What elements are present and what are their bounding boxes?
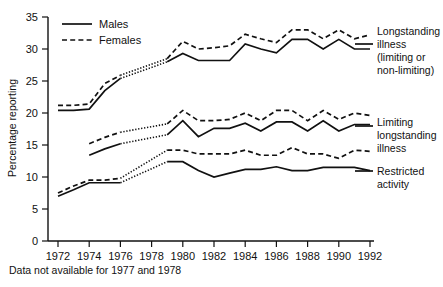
series-line <box>167 110 370 123</box>
annotation-longstanding-line-4: non-limiting) <box>377 64 434 76</box>
legend-label-males: Males <box>99 18 129 30</box>
y-tick-label: 20 <box>26 107 38 119</box>
y-axis-tick-labels: 05101520253035 <box>26 11 38 247</box>
x-tick-label: 1982 <box>202 250 226 262</box>
y-axis-ticks <box>42 17 48 241</box>
x-tick-label: 1990 <box>327 250 351 262</box>
series-line <box>58 75 120 105</box>
x-axis-tick-labels: 1972197419761978198019821984198619881990… <box>46 250 382 262</box>
series-line <box>167 148 370 159</box>
x-tick-label: 1972 <box>46 250 70 262</box>
series-line <box>167 39 370 61</box>
annotation-longstanding: Longstanding illness (limiting or non-li… <box>355 25 440 76</box>
series-gap-connector <box>120 62 167 79</box>
x-axis-ticks <box>58 241 370 247</box>
x-tick-label: 1992 <box>358 250 382 262</box>
series-restricted-males <box>58 162 370 197</box>
annotation-restricted-line-1: Restricted <box>377 165 424 177</box>
x-tick-label: 1986 <box>264 250 288 262</box>
x-tick-label: 1974 <box>77 250 101 262</box>
x-tick-label: 1978 <box>139 250 163 262</box>
annotation-longstanding-line-2: illness <box>377 38 406 50</box>
y-tick-label: 5 <box>32 203 38 215</box>
series-line <box>89 132 120 144</box>
series-line <box>167 121 370 137</box>
line-chart: 05101520253035 1972197419761978198019821… <box>0 0 443 287</box>
y-tick-label: 10 <box>26 171 38 183</box>
annotation-longstanding-line-1: Longstanding <box>377 25 440 37</box>
series-gap-connector <box>120 124 167 132</box>
footnote: Data not available for 1977 and 1978 <box>9 264 181 276</box>
annotation-restricted: Restricted activity <box>355 165 424 190</box>
annotation-limiting-line-1: Limiting <box>377 116 413 128</box>
series-layer <box>58 30 370 196</box>
series-gap-connector <box>120 59 167 76</box>
annotation-longstanding-line-3: (limiting or <box>377 51 426 63</box>
series-longstanding-males <box>58 39 370 110</box>
chart-figure: 05101520253035 1972197419761978198019821… <box>0 0 443 287</box>
axes: 05101520253035 1972197419761978198019821… <box>26 11 382 262</box>
y-tick-label: 0 <box>32 235 38 247</box>
series-limiting-females <box>89 110 370 143</box>
x-tick-label: 1980 <box>171 250 195 262</box>
series-limiting-males <box>89 121 370 156</box>
y-tick-label: 30 <box>26 43 38 55</box>
y-axis-title: Percentage reporting <box>6 79 18 177</box>
x-tick-label: 1984 <box>233 250 257 262</box>
series-line <box>167 30 370 59</box>
series-line <box>58 178 120 193</box>
series-gap-connector <box>120 135 167 144</box>
series-gap-connector <box>120 150 167 178</box>
annotation-limiting-line-3: illness <box>377 142 406 154</box>
annotation-restricted-line-2: activity <box>377 178 410 190</box>
series-restricted-females <box>58 148 370 193</box>
x-tick-label: 1988 <box>295 250 319 262</box>
y-tick-label: 35 <box>26 11 38 23</box>
y-tick-label: 15 <box>26 139 38 151</box>
annotation-limiting-line-2: longstanding <box>377 129 437 141</box>
legend-label-females: Females <box>99 34 142 46</box>
y-tick-label: 25 <box>26 75 38 87</box>
legend: Males Females <box>62 18 142 46</box>
series-line <box>167 162 370 177</box>
x-tick-label: 1976 <box>108 250 132 262</box>
series-gap-connector <box>120 162 167 183</box>
annotation-limiting: Limiting longstanding illness <box>355 116 437 154</box>
series-line <box>89 144 120 156</box>
